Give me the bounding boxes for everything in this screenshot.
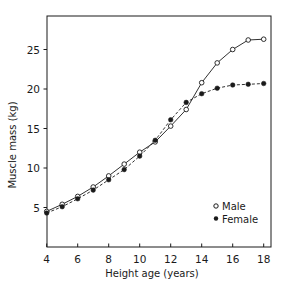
male-data-point (215, 61, 220, 66)
male-data-point (199, 80, 204, 85)
male-data-point (246, 38, 251, 43)
male-data-point (184, 107, 189, 112)
female-data-point (91, 188, 96, 193)
x-tick-label: 16 (226, 253, 240, 265)
male-data-point (230, 47, 235, 52)
female-line (47, 84, 264, 214)
female-data-point (153, 138, 158, 143)
x-tick-label: 8 (105, 253, 112, 265)
plot-frame (47, 16, 271, 247)
female-data-point (44, 211, 49, 216)
x-tick-label: 14 (195, 253, 209, 265)
y-axis-ticks: 510152025 (27, 44, 47, 214)
female-data-point (60, 204, 65, 209)
female-data-point (106, 178, 111, 183)
x-tick-label: 4 (43, 253, 50, 265)
y-tick-label: 5 (33, 202, 40, 214)
y-tick-label: 25 (27, 44, 40, 56)
male-line (47, 39, 264, 211)
female-data-point (261, 81, 266, 86)
female-data-point (168, 118, 173, 123)
male-data-point (261, 37, 266, 42)
legend-female-label: Female (222, 214, 258, 225)
male-data-point (168, 124, 173, 129)
female-data-point (137, 154, 142, 159)
female-data-point (199, 91, 204, 96)
legend-female-marker-icon (214, 216, 218, 220)
legend: Male Female (214, 201, 258, 225)
female-data-point (75, 197, 80, 202)
y-tick-label: 20 (27, 83, 40, 95)
x-tick-label: 10 (133, 253, 146, 265)
x-tick-label: 6 (74, 253, 81, 265)
muscle-mass-chart: 4681012141618 510152025 Height age (year… (0, 0, 285, 295)
series-layer (44, 37, 266, 215)
y-tick-label: 15 (27, 123, 40, 135)
legend-male-marker-icon (214, 204, 218, 208)
legend-male-label: Male (222, 201, 246, 212)
y-tick-label: 10 (27, 162, 40, 174)
female-data-point (230, 83, 235, 88)
y-axis-label: Muscle mass (kg) (7, 101, 18, 188)
x-tick-label: 12 (164, 253, 177, 265)
x-axis-label: Height age (years) (105, 268, 198, 279)
x-tick-label: 18 (257, 253, 270, 265)
male-data-point (122, 162, 127, 167)
female-data-point (246, 82, 251, 87)
female-data-point (122, 167, 127, 172)
female-data-point (215, 86, 220, 91)
female-data-point (184, 100, 189, 105)
